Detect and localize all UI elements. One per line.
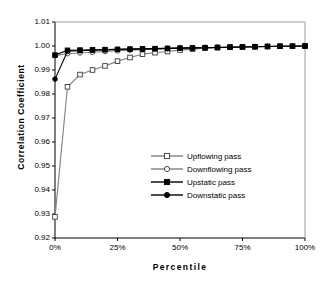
data-marker-square (115, 59, 120, 64)
legend-item[interactable]: Upstatic pass (150, 176, 251, 188)
data-marker-circle (165, 46, 170, 51)
legend-label: Downflowing pass (184, 165, 251, 174)
chart-figure: Correlation Coefficient Percentile 0.920… (0, 0, 328, 285)
legend-item[interactable]: Upflowing pass (150, 150, 251, 162)
legend-label: Upstatic pass (184, 178, 235, 187)
series-downstatic-pass (53, 44, 308, 82)
data-marker-circle (253, 44, 258, 49)
data-marker-square (140, 52, 145, 57)
legend-marker-icon (150, 176, 184, 188)
data-marker-square (78, 72, 83, 77)
data-marker-circle (203, 45, 208, 50)
data-marker-square (103, 64, 108, 69)
chart-legend: Upflowing passDownflowing passUpstatic p… (150, 150, 251, 202)
data-marker-circle (78, 49, 83, 54)
legend-item[interactable]: Downflowing pass (150, 163, 251, 175)
legend-label: Upflowing pass (184, 152, 241, 161)
data-marker-circle (90, 48, 95, 53)
data-marker-square (128, 55, 133, 60)
data-marker-circle (65, 49, 70, 54)
data-marker-square (90, 68, 95, 73)
legend-marker-icon (150, 150, 184, 162)
data-marker-circle (215, 45, 220, 50)
data-marker-circle (190, 46, 195, 51)
data-marker-circle (128, 47, 133, 52)
data-marker-circle (103, 48, 108, 53)
data-marker-circle (140, 47, 145, 52)
data-marker-square (164, 179, 169, 184)
data-marker-circle (228, 45, 233, 50)
data-marker-circle (153, 46, 158, 51)
data-marker-square (53, 53, 58, 58)
data-marker-square (164, 153, 169, 158)
legend-marker-icon (150, 189, 184, 201)
data-marker-square (65, 85, 70, 90)
legend-label: Downstatic pass (184, 191, 245, 200)
data-marker-circle (115, 47, 120, 52)
plot-area (0, 0, 328, 285)
data-marker-circle (303, 44, 308, 49)
data-marker-circle (265, 44, 270, 49)
data-marker-square (53, 215, 58, 220)
data-marker-circle (178, 46, 183, 51)
data-marker-circle (53, 77, 58, 82)
legend-item[interactable]: Downstatic pass (150, 189, 251, 201)
data-marker-circle (278, 44, 283, 49)
data-marker-circle (290, 44, 295, 49)
data-marker-circle (240, 45, 245, 50)
legend-marker-icon (150, 163, 184, 175)
data-marker-circle (164, 166, 169, 171)
data-marker-circle (164, 192, 169, 197)
